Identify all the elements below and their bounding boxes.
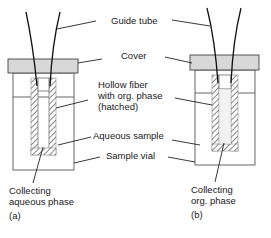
guide-tube-a-right xyxy=(50,12,60,86)
cover-b xyxy=(190,55,259,70)
hollow-fiber-b xyxy=(212,75,238,151)
cover-a xyxy=(8,59,78,73)
caption-a: (a) xyxy=(9,210,21,221)
collect-label-a-2: aqueous phase xyxy=(9,196,74,207)
label-sample-vial: Sample vial xyxy=(106,150,155,161)
label-guide-tube: Guide tube xyxy=(111,15,157,26)
center-labels: Guide tube Cover Hollow fiber with org. … xyxy=(56,15,212,163)
collect-label-b-2: org. phase xyxy=(191,195,236,206)
guide-tube-a-left xyxy=(26,12,37,86)
collect-label-a-1: Collecting xyxy=(9,185,51,196)
guide-tube-b-right xyxy=(231,8,241,83)
hollow-fiber-a xyxy=(31,78,56,155)
label-hollow-fiber-2: with org. phase xyxy=(97,90,162,101)
label-hollow-fiber-3: (hatched) xyxy=(98,101,138,112)
hollow-fiber-diagram: Collecting aqueous phase (a) Collecting … xyxy=(0,0,271,238)
panel-b: Collecting org. phase (b) xyxy=(190,8,259,220)
caption-b: (b) xyxy=(191,209,203,220)
label-aqueous-sample: Aqueous sample xyxy=(93,130,164,141)
label-hollow-fiber-1: Hollow fiber xyxy=(98,79,148,90)
guide-tube-b-left xyxy=(207,8,218,83)
panel-a: Collecting aqueous phase (a) xyxy=(8,12,78,221)
label-cover: Cover xyxy=(121,50,146,61)
collect-label-b-1: Collecting xyxy=(191,184,233,195)
